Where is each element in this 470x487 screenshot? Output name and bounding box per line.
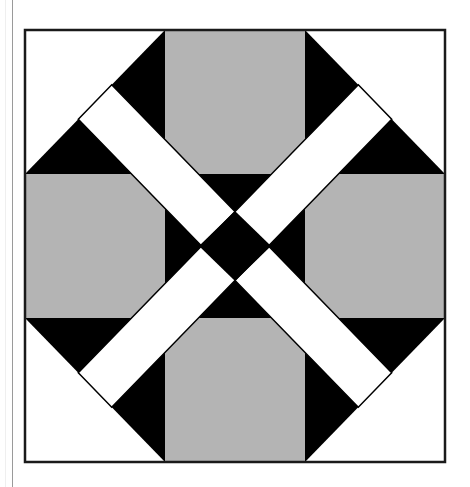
gray-square-right: [305, 174, 445, 318]
gray-square-left: [25, 174, 165, 318]
gray-square-bottom: [165, 318, 305, 462]
canvas: Quilt block: octagonal frame with crosse…: [0, 0, 470, 487]
quilt-block-diagram: [0, 0, 470, 487]
gray-square-top: [165, 30, 305, 174]
